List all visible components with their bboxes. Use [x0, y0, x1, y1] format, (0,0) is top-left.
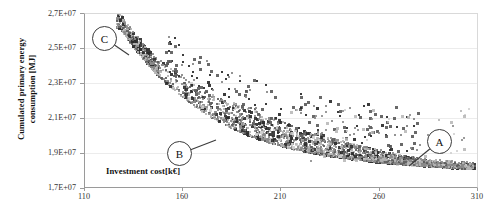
x-axis-title: Investment cost[k€]: [106, 166, 180, 176]
x-tick-label-110: 110: [64, 192, 104, 201]
x-tick-mark-210: [280, 188, 281, 191]
y-tick-label-25e7: 2,5E+07: [24, 43, 76, 52]
callout-marker-c[interactable]: C: [92, 26, 117, 51]
chart-figure: Cumulated primary energy consumption [MJ…: [0, 0, 494, 222]
x-tick-mark-160: [182, 188, 183, 191]
x-tick-label-160: 160: [162, 192, 202, 201]
y-tick-label-17e7: 1,7E+07: [24, 183, 76, 192]
callout-label-c: C: [101, 33, 108, 45]
callout-label-b: B: [176, 148, 183, 160]
y-tick-label-21e7: 2,1E+07: [24, 113, 76, 122]
x-tick-mark-260: [379, 188, 380, 191]
y-tick-label-19e7: 1,9E+07: [24, 148, 76, 157]
callout-marker-b[interactable]: B: [167, 141, 192, 166]
x-tick-label-260: 260: [359, 192, 399, 201]
plot-area: [84, 13, 478, 188]
scatter-points: [85, 14, 477, 187]
y-tick-label-23e7: 2,3E+07: [24, 78, 76, 87]
x-tick-mark-310: [477, 188, 478, 191]
x-tick-label-210: 210: [260, 192, 300, 201]
callout-label-a: A: [436, 136, 444, 148]
x-tick-mark-110: [84, 188, 85, 191]
y-tick-label-27e7: 2,7E+07: [24, 9, 76, 18]
callout-marker-a[interactable]: A: [427, 129, 452, 154]
x-tick-label-310: 310: [457, 192, 494, 201]
